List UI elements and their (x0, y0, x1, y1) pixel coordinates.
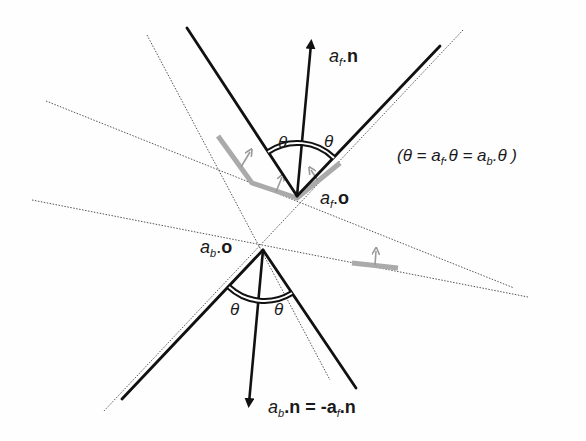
theta-equation: (θ = af.θ = ab.θ ) (397, 146, 517, 167)
back-theta-right: θ (274, 300, 284, 319)
front-theta-left: θ (278, 133, 288, 152)
gray-arrows (241, 152, 376, 265)
front-angle (187, 28, 440, 196)
dotted-line-4 (32, 200, 528, 297)
back-angle (122, 250, 356, 399)
front-normal-arrow (297, 44, 311, 196)
dotted-line-1 (147, 35, 330, 380)
front-theta-right: θ (324, 132, 334, 151)
back-normal-label: ab.n = -af.n (268, 397, 356, 419)
gray-arrow-4 (375, 251, 376, 265)
front-right-arm (297, 46, 440, 196)
back-right-arm (263, 250, 356, 388)
back-left-arm (122, 250, 263, 399)
back-normal-arrow (249, 250, 263, 403)
diagram-canvas: θ θ af.n af.o ab.o θ θ ab.n = -af.n (θ =… (0, 0, 586, 441)
gray-path (218, 136, 398, 268)
front-apex-label: af.o (320, 188, 349, 210)
front-normal-label: af.n (329, 46, 358, 68)
back-apex-label: ab.o (200, 237, 232, 259)
diagram-svg: θ θ af.n af.o ab.o θ θ ab.n = -af.n (θ =… (0, 0, 586, 441)
dotted-construction-lines (32, 30, 528, 412)
back-theta-left: θ (230, 300, 240, 319)
dotted-line-2 (103, 30, 463, 412)
gray-arrow-1 (241, 152, 250, 167)
